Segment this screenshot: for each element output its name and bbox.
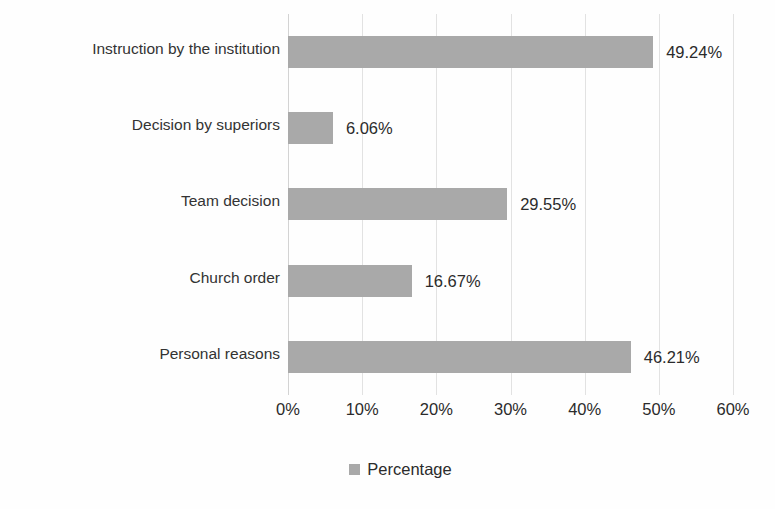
bar-row: 29.55%: [288, 166, 733, 242]
x-tick-label: 0%: [276, 400, 300, 419]
bar: [288, 112, 333, 144]
x-tick-label: 10%: [346, 400, 379, 419]
x-tick-label: 50%: [642, 400, 675, 419]
bar-value-label: 49.24%: [653, 36, 722, 68]
x-tick-label: 30%: [494, 400, 527, 419]
bar-value-label: 46.21%: [631, 341, 700, 373]
category-label: Personal reasons: [8, 345, 280, 363]
x-tick-label: 20%: [420, 400, 453, 419]
legend-entry-percentage: Percentage: [349, 460, 451, 479]
bar-row: 49.24%: [288, 14, 733, 90]
category-label: Instruction by the institution: [8, 40, 280, 58]
bar-row: 46.21%: [288, 319, 733, 395]
bar: [288, 265, 412, 297]
category-label: Team decision: [8, 192, 280, 210]
bar-row: 16.67%: [288, 243, 733, 319]
x-tick-label: 40%: [568, 400, 601, 419]
bar-row: 6.06%: [288, 90, 733, 166]
bar: [288, 36, 653, 68]
category-label: Church order: [8, 269, 280, 287]
bar-value-label: 16.67%: [412, 265, 481, 297]
x-tick-label: 60%: [716, 400, 749, 419]
bar-value-label: 29.55%: [507, 188, 576, 220]
legend-swatch-icon: [349, 464, 360, 475]
legend-label: Percentage: [367, 460, 451, 479]
plot-area: 49.24%6.06%29.55%16.67%46.21%: [288, 14, 733, 395]
bar: [288, 341, 631, 373]
category-label: Decision by superiors: [8, 116, 280, 134]
chart-legend: Percentage: [0, 460, 775, 479]
bar-value-label: 6.06%: [333, 112, 393, 144]
bar-chart: Instruction by the institutionDecision b…: [0, 0, 775, 509]
x-axis-tick-labels: 0%10%20%30%40%50%60%: [288, 400, 733, 430]
gridline-60%: [733, 14, 734, 395]
bar: [288, 188, 507, 220]
